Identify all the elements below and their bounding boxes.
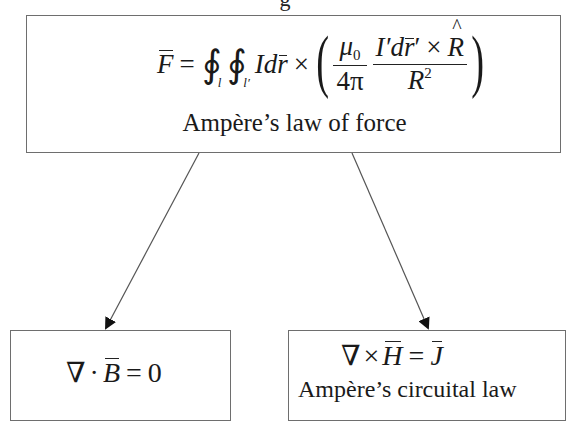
close-paren: ): [471, 26, 484, 96]
h-vector: H: [382, 340, 402, 372]
current-I: I: [255, 49, 264, 80]
open-paren: (: [316, 26, 329, 96]
force-law-equation: F = ∮l ∮l′ I d r × ( μ0 4π I′dr′×R R2 ): [157, 24, 485, 104]
divergence-b-equation: ∇ · B = 0: [66, 356, 162, 389]
b-vector: B: [103, 357, 120, 389]
differential-d: d: [264, 49, 278, 80]
ampere-force-law-box: F = ∮l ∮l′ I d r × ( μ0 4π I′dr′×R R2 ) …: [26, 15, 561, 153]
biot-savart-fraction: I′dr′×R R2: [373, 32, 468, 95]
cross-operator: ×: [364, 340, 380, 372]
closed-integral-l-prime: ∮l′: [227, 45, 253, 83]
cross-product: ×: [294, 49, 309, 80]
ampere-circuital-law-box: ∇ × H = J Ampère’s circuital law: [288, 330, 566, 421]
circuital-law-caption: Ampère’s circuital law: [298, 376, 517, 403]
arrow-to-divergence-box: [106, 153, 199, 328]
mu0-over-4pi: μ0 4π: [333, 31, 366, 96]
nabla-symbol: ∇: [341, 339, 361, 372]
force-law-caption: Ampère’s law of force: [27, 109, 562, 137]
curl-h-equation: ∇ × H = J: [341, 339, 443, 372]
zero: 0: [148, 357, 162, 389]
gauss-magnetism-box: ∇ · B = 0: [10, 330, 231, 421]
dot-operator: ·: [90, 357, 99, 389]
arrow-to-curl-box: [352, 153, 428, 328]
j-vector: J: [430, 340, 442, 372]
r-vector: r: [277, 49, 288, 80]
nabla-symbol: ∇: [66, 356, 86, 389]
equals-sign: =: [126, 357, 142, 389]
equals-sign: =: [180, 49, 195, 80]
clipped-heading-fragment: g: [245, 0, 325, 4]
closed-integral-l: ∮l: [202, 45, 226, 83]
equals-sign: =: [409, 340, 425, 372]
force-vector: F: [157, 49, 174, 80]
